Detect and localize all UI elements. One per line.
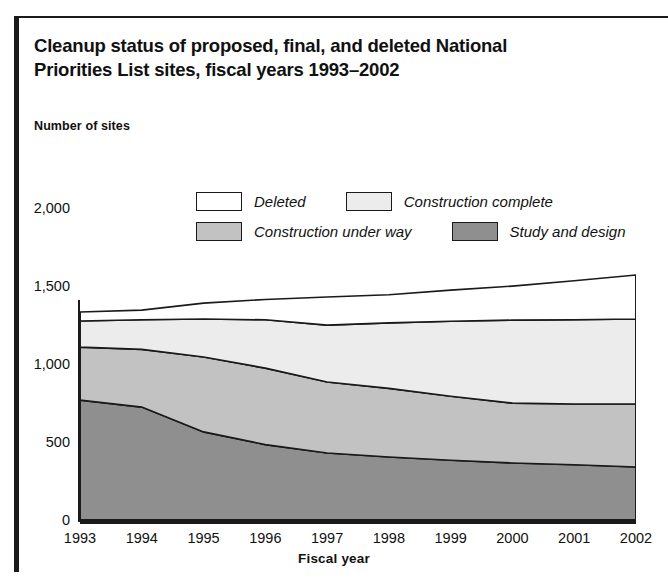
y-tick-label: 500: [8, 434, 70, 450]
y-tick-label: 1,000: [8, 356, 70, 372]
y-tick-label: 1,500: [8, 278, 70, 294]
x-axis-title: Fiscal year: [0, 551, 668, 566]
figure-panel: Cleanup status of proposed, final, and d…: [0, 0, 668, 580]
figure-top-rule: [14, 16, 668, 18]
figure-title-line1: Cleanup status of proposed, final, and d…: [34, 35, 507, 56]
stacked-area-plot: [80, 200, 636, 522]
y-axis-title: Number of sites: [34, 119, 130, 133]
x-tick-label: 1995: [176, 530, 232, 546]
x-tick-label: 1994: [114, 530, 170, 546]
y-tick-label: 2,000: [8, 200, 70, 216]
x-axis-line: [80, 519, 636, 524]
y-tick-label: 0: [8, 512, 70, 528]
x-tick-label: 1999: [423, 530, 479, 546]
x-tick-label: 2001: [546, 530, 602, 546]
x-tick-label: 2002: [608, 530, 664, 546]
figure-title-line2: Priorities List sites, fiscal years 1993…: [34, 58, 614, 82]
y-axis-line: [78, 300, 80, 522]
x-tick-label: 1996: [237, 530, 293, 546]
figure-title: Cleanup status of proposed, final, and d…: [34, 34, 614, 82]
x-tick-label: 1998: [361, 530, 417, 546]
area-series-deleted: [80, 275, 636, 325]
stacked-area-svg: [80, 200, 636, 522]
figure-left-rule: [14, 16, 19, 572]
x-tick-label: 1993: [52, 530, 108, 546]
x-tick-label: 2000: [484, 530, 540, 546]
x-tick-label: 1997: [299, 530, 355, 546]
